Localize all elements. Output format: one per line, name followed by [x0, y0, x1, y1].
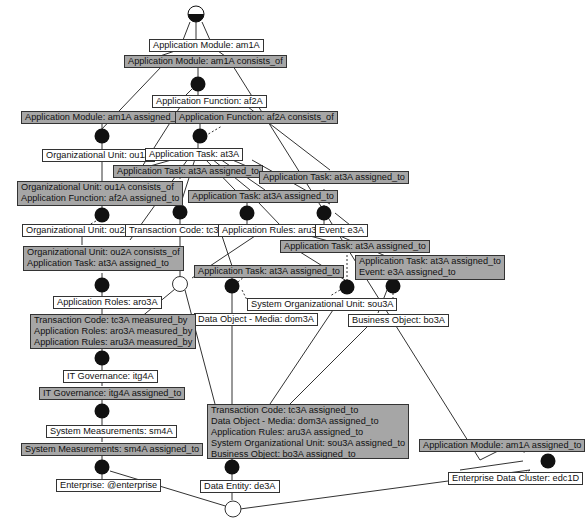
- relation-at3A-assigned-to-3[interactable]: Application Task: at3A assigned_to: [188, 190, 338, 203]
- relation-line: Organizational Unit: ou2A consists_of: [27, 247, 180, 258]
- junction-node[interactable]: [95, 351, 110, 366]
- node-data-entity-de3A[interactable]: Data Entity: de3A: [200, 480, 280, 493]
- node-system-organizational-unit-sou3A[interactable]: System Organizational Unit: sou3A: [247, 298, 397, 311]
- relation-line: Application Task: at3A assigned_to: [192, 191, 334, 202]
- relation-am1A-consists-of[interactable]: Application Module: am1A consists_of: [124, 55, 287, 68]
- node-data-object-media-dom3A[interactable]: Data Object - Media: dom3A: [194, 313, 318, 326]
- node-transaction-code-tc3A[interactable]: Transaction Code: tc3A: [125, 224, 229, 237]
- relation-line: IT Governance: itg4A assigned_to: [43, 388, 181, 399]
- relation-line: Application Rules: aru3A assigned_to: [211, 427, 405, 438]
- junction-node[interactable]: [191, 77, 206, 92]
- node-organizational-unit-ou1A[interactable]: Organizational Unit: ou1A: [42, 149, 155, 162]
- node-application-module-am1A[interactable]: Application Module: am1A: [149, 39, 264, 52]
- relation-at3A-assigned-to-4[interactable]: Application Task: at3A assigned_to: [280, 240, 430, 253]
- junction-open-node[interactable]: [173, 277, 188, 292]
- relation-line: Transaction Code: tc3A measured_by: [34, 315, 192, 326]
- relation-line: System Measurements: sm4A assigned_to: [25, 444, 199, 455]
- junction-node[interactable]: [386, 279, 401, 294]
- relation-at3A-assigned-to-1[interactable]: Application Task: at3A assigned_to: [113, 165, 263, 178]
- node-enterprise-data-cluster-edc1D[interactable]: Enterprise Data Cluster: edc1D: [448, 472, 583, 485]
- relation-sm4A-assigned-to[interactable]: System Measurements: sm4A assigned_to: [21, 443, 203, 456]
- relation-line: Application Rules: aru3A measured_by: [34, 337, 192, 348]
- relation-ou1A-consists-of-af2A-assigned-to[interactable]: Organizational Unit: ou1A consists_of Ap…: [17, 181, 183, 206]
- relation-line: Application Roles: aro3A measured_by: [34, 326, 192, 337]
- junction-node[interactable]: [95, 208, 110, 223]
- node-application-roles-aro3A[interactable]: Application Roles: aro3A: [53, 296, 162, 309]
- junction-node[interactable]: [225, 460, 240, 475]
- relation-line: System Organizational Unit: sou3A assign…: [211, 438, 405, 449]
- relation-at3A-assigned-to-5[interactable]: Application Task: at3A assigned_to: [194, 265, 344, 278]
- relation-line: Application Task: at3A assigned_to: [284, 241, 426, 252]
- relation-line: Application Module: am1A consists_of: [128, 56, 283, 67]
- junction-node[interactable]: [193, 129, 208, 144]
- relation-am1A-assigned-to[interactable]: Application Module: am1A assigned_to: [21, 111, 187, 124]
- junction-node[interactable]: [95, 129, 110, 144]
- relation-line: Application Function: af2A assigned_to: [21, 193, 179, 204]
- relation-af2A-consists-of[interactable]: Application Function: af2A consists_of: [175, 111, 338, 124]
- relation-line: Application Task: at3A assigned_to: [359, 256, 501, 267]
- junction-node[interactable]: [240, 206, 255, 221]
- junction-node[interactable]: [173, 205, 188, 220]
- relation-am1A-assigned-to-edc[interactable]: Application Module: am1A assigned_to: [419, 439, 585, 452]
- relation-line: Transaction Code: tc3A assigned_to: [211, 405, 405, 416]
- junction-node[interactable]: [541, 454, 556, 469]
- relation-ou2A-consists-of-at3A-assigned-to[interactable]: Organizational Unit: ou2A consists_of Ap…: [23, 246, 184, 271]
- node-application-function-af2A[interactable]: Application Function: af2A: [152, 95, 267, 108]
- relation-line: Application Task: at3A assigned_to: [263, 172, 405, 183]
- relation-line: Organizational Unit: ou1A consists_of: [21, 182, 179, 193]
- junction-node[interactable]: [95, 460, 110, 475]
- node-it-governance-itg4A[interactable]: IT Governance: itg4A: [63, 370, 158, 383]
- relation-line: Application Task: at3A assigned_to: [117, 166, 259, 177]
- node-application-task-at3A[interactable]: Application Task: at3A: [145, 148, 243, 161]
- root-node-icon[interactable]: [188, 6, 204, 22]
- node-application-rules-aru3A[interactable]: Application Rules: aru3A: [218, 224, 327, 237]
- relation-multi-assigned-to[interactable]: Transaction Code: tc3A assigned_to Data …: [207, 404, 409, 459]
- junction-node[interactable]: [95, 278, 110, 293]
- relation-line: Application Function: af2A consists_of: [179, 112, 334, 123]
- relation-measured-by[interactable]: Transaction Code: tc3A measured_by Appli…: [30, 314, 196, 349]
- relation-line: Application Module: am1A assigned_to: [25, 112, 183, 123]
- relation-line: Application Task: at3A assigned_to: [198, 266, 340, 277]
- relation-at3A-e3A-assigned-to[interactable]: Application Task: at3A assigned_to Event…: [355, 255, 505, 280]
- node-organizational-unit-ou2A[interactable]: Organizational Unit: ou2A: [22, 224, 135, 237]
- relation-itg4A-assigned-to[interactable]: IT Governance: itg4A assigned_to: [39, 387, 185, 400]
- relation-line: Application Task: at3A assigned_to: [27, 258, 180, 269]
- node-event-e3A[interactable]: Event: e3A: [315, 224, 368, 237]
- node-enterprise[interactable]: Enterprise: @enterprise: [56, 479, 161, 492]
- relation-line: Event: e3A assigned_to: [359, 267, 501, 278]
- relation-line: Data Object - Media: dom3A assigned_to: [211, 416, 405, 427]
- junction-node[interactable]: [225, 279, 240, 294]
- relation-line: Application Module: am1A assigned_to: [423, 440, 581, 451]
- junction-node[interactable]: [317, 206, 332, 221]
- relation-at3A-assigned-to-2[interactable]: Application Task: at3A assigned_to: [259, 171, 409, 184]
- node-business-object-bo3A[interactable]: Business Object: bo3A: [348, 314, 449, 327]
- relation-line: Business Object: bo3A assigned_to: [211, 449, 405, 460]
- junction-open-node[interactable]: [225, 501, 241, 517]
- junction-node[interactable]: [95, 404, 110, 419]
- junction-node[interactable]: [340, 280, 355, 295]
- node-system-measurements-sm4A[interactable]: System Measurements: sm4A: [46, 425, 177, 438]
